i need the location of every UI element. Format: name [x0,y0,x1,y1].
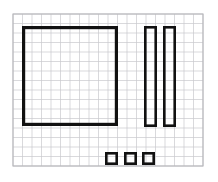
sketch-canvas [0,0,218,182]
sketch-svg [0,0,218,182]
